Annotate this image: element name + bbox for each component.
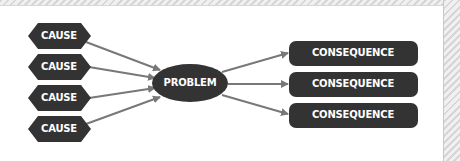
consequence-label-2: CONSEQUENCE xyxy=(312,79,394,89)
arrow-cause-2-to-problem xyxy=(89,67,155,78)
cause-label-2: CAUSE xyxy=(41,62,77,72)
arrow-cause-1-to-problem xyxy=(86,42,160,70)
arrow-problem-to-consequence-1 xyxy=(222,53,288,72)
cause-label-3: CAUSE xyxy=(41,93,77,103)
cause-arrows xyxy=(86,42,160,124)
problem-label: PROBLEM xyxy=(164,78,217,88)
arrow-problem-to-consequence-3 xyxy=(222,95,288,114)
consequence-label-1: CONSEQUENCE xyxy=(312,48,394,58)
consequence-label-3: CONSEQUENCE xyxy=(312,110,394,120)
arrow-cause-4-to-problem xyxy=(86,97,160,124)
cause-label-4: CAUSE xyxy=(41,124,77,134)
arrow-cause-3-to-problem xyxy=(89,88,155,98)
cause-label-1: CAUSE xyxy=(41,31,77,41)
consequence-arrows xyxy=(222,53,288,114)
